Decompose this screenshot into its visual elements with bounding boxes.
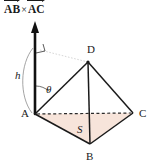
base-triangle-shaded-area xyxy=(35,113,133,144)
vertex-label-C: C xyxy=(139,108,146,119)
vertex-label-A: A xyxy=(21,108,29,119)
vertex-label-D: D xyxy=(87,44,95,55)
angle-label-theta: θ xyxy=(46,84,51,95)
area-label-S: S xyxy=(77,124,83,135)
perpendicular-guide-line xyxy=(40,50,88,62)
vector-ac-label: AC xyxy=(28,3,45,15)
vector-ab-label: AB xyxy=(4,3,20,15)
right-angle-mark xyxy=(36,44,45,53)
edge-A-D xyxy=(35,62,88,114)
height-brace-arc xyxy=(23,48,33,113)
cross-operator: × xyxy=(20,4,28,15)
vertex-dot-A xyxy=(34,113,37,116)
vertex-label-B: B xyxy=(86,151,93,162)
cross-product-arrow-head xyxy=(31,21,39,33)
cross-product-label: AB×AC xyxy=(4,3,45,15)
height-label: h xyxy=(15,70,21,81)
tetrahedron-diagram xyxy=(0,0,155,166)
vertex-dot-D xyxy=(86,60,89,63)
edge-D-C xyxy=(88,62,133,113)
